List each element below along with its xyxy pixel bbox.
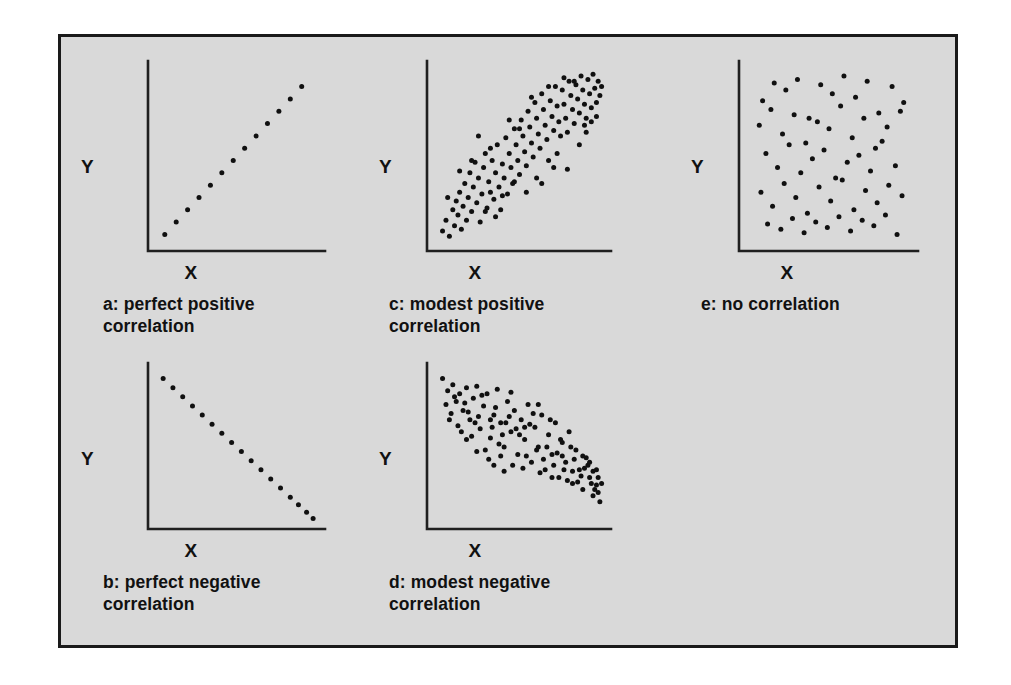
data-point <box>538 146 543 151</box>
data-point <box>496 441 501 446</box>
data-point <box>488 417 493 422</box>
data-point <box>901 100 906 105</box>
data-point <box>288 495 293 500</box>
data-point <box>512 179 517 184</box>
data-point <box>208 183 213 188</box>
panel-c-plot <box>401 49 661 279</box>
data-point <box>577 142 582 147</box>
data-point <box>474 449 479 454</box>
data-point <box>505 191 510 196</box>
data-point <box>543 467 548 472</box>
data-point <box>443 218 448 223</box>
data-point <box>572 121 577 126</box>
panel-b-x-label: X <box>171 541 211 560</box>
data-point <box>597 93 602 98</box>
data-point <box>556 119 561 124</box>
data-point <box>868 169 873 174</box>
data-point <box>311 516 316 521</box>
data-point <box>567 429 572 434</box>
data-point <box>828 199 833 204</box>
data-point <box>507 414 512 419</box>
data-point <box>469 434 474 439</box>
data-point <box>510 463 515 468</box>
data-point <box>526 109 531 114</box>
data-point <box>532 100 537 105</box>
data-point <box>563 460 568 465</box>
data-point <box>544 445 549 450</box>
data-point <box>873 146 878 151</box>
data-point <box>170 385 175 390</box>
data-point <box>765 221 770 226</box>
data-point <box>466 410 471 415</box>
data-point <box>555 103 560 108</box>
data-point <box>445 388 450 393</box>
data-point <box>491 413 496 418</box>
data-point <box>464 437 469 442</box>
data-point <box>534 176 539 181</box>
data-point <box>594 100 599 105</box>
data-point <box>493 170 498 175</box>
data-point <box>229 440 234 445</box>
data-point <box>555 451 560 456</box>
data-point <box>502 469 507 474</box>
data-point <box>515 158 520 163</box>
data-point <box>519 417 524 422</box>
data-point <box>596 490 601 495</box>
data-point <box>775 165 780 170</box>
data-point <box>592 86 597 91</box>
data-point <box>822 147 827 152</box>
data-point <box>772 81 777 86</box>
data-point <box>462 400 467 405</box>
data-point <box>278 486 283 491</box>
data-point <box>483 209 488 214</box>
panel-b: Y X b: perfect negative correlation <box>81 349 341 639</box>
panel-c-y-label: Y <box>379 157 392 176</box>
data-point <box>464 218 469 223</box>
data-point <box>536 132 541 137</box>
data-point <box>893 163 898 168</box>
data-point <box>876 111 881 116</box>
data-point <box>783 88 788 93</box>
data-point <box>561 467 566 472</box>
data-point <box>565 478 570 483</box>
data-point <box>856 153 861 158</box>
data-point <box>249 458 254 463</box>
data-point <box>461 408 466 413</box>
data-point <box>596 79 601 84</box>
data-point <box>875 200 880 205</box>
data-point <box>508 429 513 434</box>
data-point <box>553 420 558 425</box>
data-point <box>587 91 592 96</box>
data-point <box>543 123 548 128</box>
data-point <box>805 211 810 216</box>
data-point <box>258 467 263 472</box>
data-point <box>457 169 462 174</box>
data-point <box>561 75 566 80</box>
data-point <box>486 179 491 184</box>
data-point <box>265 121 270 126</box>
data-point <box>544 137 549 142</box>
data-point <box>561 102 566 107</box>
data-point <box>485 391 490 396</box>
data-point <box>454 199 459 204</box>
data-point <box>452 394 457 399</box>
data-point <box>760 98 765 103</box>
panel-a-caption: a: perfect positive correlation <box>103 293 333 338</box>
panel-a-plot <box>103 49 363 279</box>
data-point <box>304 510 309 515</box>
data-point <box>503 420 508 425</box>
data-point <box>479 393 484 398</box>
panel-d-caption: d: modest negative correlation <box>389 571 634 616</box>
data-point <box>895 232 900 237</box>
data-point <box>848 228 853 233</box>
data-point <box>587 460 592 465</box>
data-point <box>551 165 556 170</box>
data-point <box>190 403 195 408</box>
data-point <box>534 116 539 121</box>
data-point <box>476 133 481 138</box>
data-point <box>802 230 807 235</box>
data-point <box>580 88 585 93</box>
data-point <box>527 422 532 427</box>
data-point <box>539 181 544 186</box>
panel-b-plot <box>103 349 363 559</box>
